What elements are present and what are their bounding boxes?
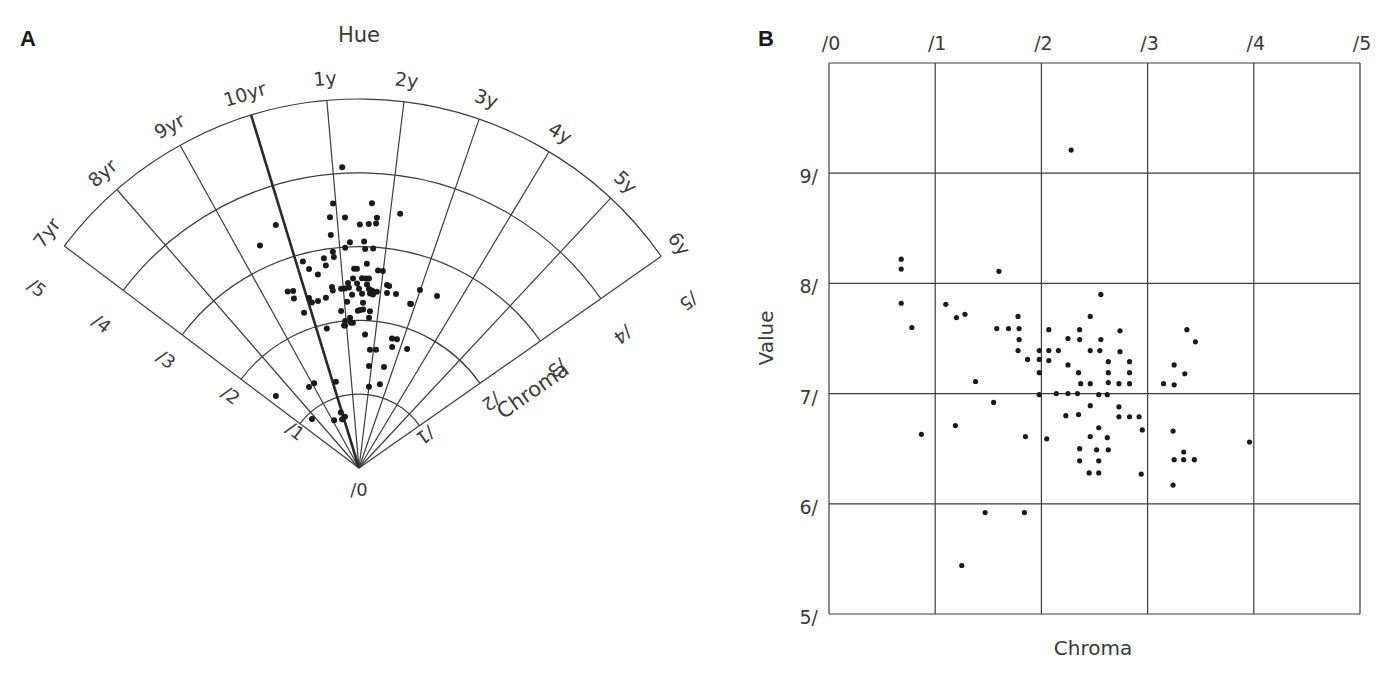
data-point xyxy=(1078,381,1083,386)
data-point xyxy=(1054,391,1059,396)
data-point xyxy=(1075,391,1080,396)
data-point xyxy=(1088,403,1093,408)
panel-label-b: B xyxy=(758,26,774,51)
data-point xyxy=(367,347,373,353)
data-point xyxy=(954,315,959,320)
data-point xyxy=(1140,427,1145,432)
data-point xyxy=(367,308,373,314)
data-point xyxy=(1137,414,1142,419)
data-point xyxy=(1106,370,1111,375)
data-point xyxy=(417,287,423,293)
data-point xyxy=(1106,359,1111,364)
chroma-value-chart: B /0/1/2/3/4/5 5/6/7/8/9/ Chroma Value xyxy=(754,26,1371,660)
chroma-tick-label-right: /5 xyxy=(675,288,701,315)
data-point xyxy=(1181,457,1186,462)
data-point xyxy=(330,201,336,207)
data-point xyxy=(366,315,372,321)
data-point xyxy=(1037,357,1042,362)
data-point xyxy=(350,275,356,281)
data-point xyxy=(341,323,347,329)
data-point xyxy=(1087,470,1092,475)
data-point xyxy=(374,215,380,221)
data-point xyxy=(1088,381,1093,386)
data-point xyxy=(1139,471,1144,476)
data-point xyxy=(301,310,307,316)
hue-spoke xyxy=(359,152,549,468)
hue-spoke xyxy=(64,246,359,468)
data-point xyxy=(899,301,904,306)
data-point xyxy=(328,232,334,238)
data-point xyxy=(1172,362,1177,367)
x-tick-label: /5 xyxy=(1353,32,1372,54)
data-point xyxy=(384,282,390,288)
data-point xyxy=(338,308,344,314)
data-point xyxy=(1076,370,1081,375)
data-point xyxy=(384,290,390,296)
data-point xyxy=(381,364,387,370)
data-point xyxy=(300,258,306,264)
data-point xyxy=(1046,327,1051,332)
data-points xyxy=(899,147,1253,568)
data-point xyxy=(1116,381,1121,386)
data-point xyxy=(1077,337,1082,342)
data-point xyxy=(1182,371,1187,376)
data-point xyxy=(1181,449,1186,454)
data-point xyxy=(1076,412,1081,417)
data-point xyxy=(1023,434,1028,439)
y-tick-label: 5/ xyxy=(800,606,819,628)
data-point xyxy=(1098,292,1103,297)
data-point xyxy=(434,293,440,299)
data-point xyxy=(357,221,363,227)
data-point xyxy=(1037,348,1042,353)
data-point xyxy=(1044,436,1049,441)
polar-grid xyxy=(64,99,661,468)
y-tick-label: 8/ xyxy=(800,275,819,297)
hue-tick-label: 7yr xyxy=(28,213,64,251)
data-point xyxy=(1088,348,1093,353)
data-point xyxy=(943,302,948,307)
data-point xyxy=(370,246,376,252)
data-point xyxy=(1056,348,1061,353)
data-point xyxy=(994,326,999,331)
data-point xyxy=(362,246,368,252)
data-point xyxy=(348,320,354,326)
x-tick-label: /1 xyxy=(928,32,947,54)
data-point xyxy=(1127,370,1132,375)
figure: A Hue 7yr8yr9yr10yr1y2y3y4y5y6y /1/1/2/2… xyxy=(0,0,1393,682)
data-point xyxy=(953,423,958,428)
data-point xyxy=(899,257,904,262)
data-point xyxy=(959,563,964,568)
data-point xyxy=(315,298,321,304)
data-point xyxy=(983,510,988,515)
data-point xyxy=(257,243,263,249)
data-point xyxy=(1116,404,1121,409)
data-point xyxy=(1193,339,1198,344)
data-point xyxy=(369,200,375,206)
hue-tick-label: 8yr xyxy=(83,154,121,191)
data-point xyxy=(1106,380,1111,385)
data-point xyxy=(373,347,379,353)
data-point xyxy=(327,214,333,220)
data-point xyxy=(1088,314,1093,319)
data-point xyxy=(1096,392,1101,397)
data-point xyxy=(366,363,372,369)
data-point xyxy=(333,379,339,385)
data-point xyxy=(1037,392,1042,397)
hue-spoke xyxy=(359,256,661,468)
data-point xyxy=(349,292,355,298)
data-point xyxy=(273,393,279,399)
data-point xyxy=(366,384,372,390)
data-point xyxy=(359,291,365,297)
y-axis-title: Value xyxy=(754,311,778,366)
data-point xyxy=(397,211,403,217)
data-point xyxy=(366,276,372,282)
data-point xyxy=(309,416,315,422)
data-point xyxy=(1065,362,1070,367)
data-point xyxy=(331,254,337,260)
y-tick-label: 7/ xyxy=(800,386,819,408)
data-point xyxy=(1046,358,1051,363)
data-point xyxy=(1025,357,1030,362)
x-axis-title: Chroma xyxy=(1054,636,1132,660)
data-point xyxy=(1247,439,1252,444)
data-point xyxy=(1046,348,1051,353)
